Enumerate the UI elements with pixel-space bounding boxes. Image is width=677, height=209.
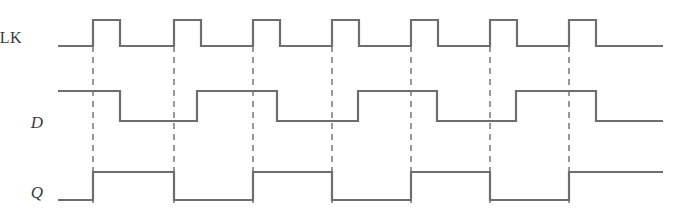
timing-diagram: CLK D Q	[0, 0, 677, 209]
signal-label-clk: CLK	[0, 30, 22, 46]
signal-label-d: D	[31, 114, 43, 131]
trace-d	[58, 91, 663, 121]
signal-label-q: Q	[31, 184, 43, 201]
trace-clk	[58, 20, 663, 46]
signal-traces	[58, 20, 663, 200]
trace-q	[58, 172, 663, 200]
waveform-canvas	[0, 0, 677, 209]
